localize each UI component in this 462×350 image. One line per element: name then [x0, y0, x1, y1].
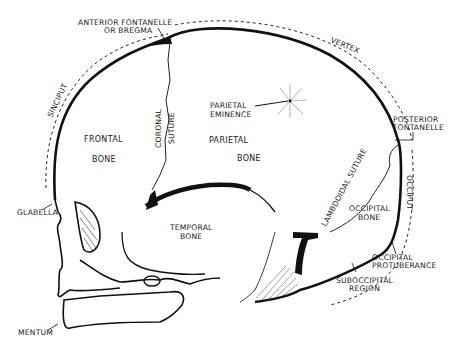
- label-mentum: MENTUM: [18, 328, 53, 337]
- label-coronal: CORONAL: [154, 108, 163, 148]
- label-frontal-bone: BONE: [92, 155, 116, 164]
- label-parietal-bone: BONE: [237, 154, 261, 163]
- parietal-eminence-point: [289, 100, 292, 103]
- label-occipital-bone: BONE: [358, 213, 380, 222]
- label-posterior-fontanelle: FONTANELLE: [393, 123, 444, 132]
- label-frontal: FRONTAL: [84, 135, 123, 144]
- label-occipital-protuberance-2: PROTUBERANCE: [372, 261, 436, 270]
- mandible: [63, 292, 183, 329]
- label-vertex: VERTEX: [329, 36, 361, 56]
- zygomatic-arch: [80, 260, 220, 284]
- asterion-mark: [293, 232, 318, 275]
- label-occiput: OCCIPUT: [405, 175, 414, 210]
- label-parietal-eminence: PARIETAL: [210, 101, 247, 110]
- label-glabella: GLABELLA: [17, 208, 59, 217]
- label-temporal-bone: BONE: [180, 232, 202, 241]
- parietal-eminence-radiation: [278, 84, 307, 118]
- label-eminence: EMINENCE: [210, 110, 251, 119]
- label-occipital: OCCIPITAL: [349, 204, 390, 213]
- label-bregma: OR BREGMA: [104, 26, 153, 35]
- ear-canal: [144, 276, 160, 286]
- squamous-suture: [146, 185, 250, 206]
- parietal-eminence-leader: [255, 101, 288, 106]
- label-temporal: TEMPORAL: [169, 223, 213, 232]
- orbit: [75, 202, 100, 252]
- anterior-fontanelle-mark: [140, 36, 172, 48]
- face-profile: [55, 200, 120, 297]
- pterion-mark: [146, 190, 158, 210]
- label-parietal: PARIETAL: [209, 136, 249, 145]
- skull-outline: [54, 28, 401, 302]
- label-suture: SUTURE: [167, 112, 176, 144]
- fetal-skull-diagram: ANTERIOR FONTANELLE OR BREGMA VERTEX SIN…: [0, 0, 462, 350]
- label-suboccipital-region: REGION: [349, 284, 380, 293]
- anterior-fontanelle-leader: [158, 28, 165, 40]
